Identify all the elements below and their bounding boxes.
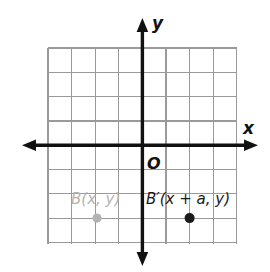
image-point: [185, 213, 195, 223]
origin-label: O: [147, 154, 161, 173]
figure-background: [0, 0, 270, 272]
coordinate-plane-svg: y x O B(x, y) B′(x + a, y): [0, 0, 270, 272]
preimage-point-label: B(x, y): [71, 190, 120, 208]
coordinate-plane-figure: y x O B(x, y) B′(x + a, y): [0, 0, 270, 272]
image-point-label: B′(x + a, y): [146, 190, 230, 208]
x-axis-label: x: [242, 118, 255, 138]
preimage-point: [92, 214, 101, 223]
y-axis-label: y: [152, 13, 164, 33]
